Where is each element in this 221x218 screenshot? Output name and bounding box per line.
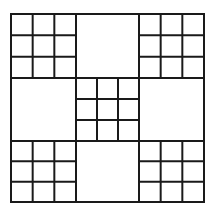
block-bottom-left xyxy=(11,141,76,202)
block-center xyxy=(76,78,139,141)
block-top-left xyxy=(11,14,76,78)
outer-border xyxy=(11,14,204,202)
block-bottom-right xyxy=(139,141,204,202)
block-top-right xyxy=(139,14,204,78)
grid-diagram xyxy=(0,0,221,218)
